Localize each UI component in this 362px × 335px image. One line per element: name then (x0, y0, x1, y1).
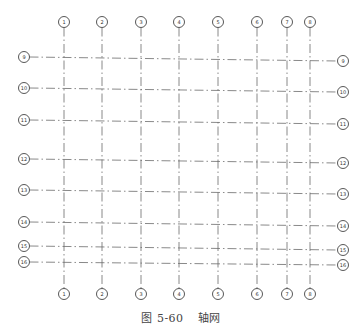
axis-bubble-right-10: 10 (338, 87, 349, 98)
axis-label: 15 (21, 243, 27, 249)
axis-bubble-left-16: 16 (19, 257, 30, 268)
axis-label: 15 (340, 247, 346, 253)
axis-bubble-left-14: 14 (19, 217, 30, 228)
horizontal-axis-line-10 (30, 88, 338, 92)
axis-label: 3 (139, 291, 142, 297)
axis-grid-diagram: 1122334455667788991010111112121313141415… (0, 0, 362, 335)
axis-label: 2 (100, 291, 103, 297)
horizontal-axis-line-16 (30, 262, 338, 265)
axis-label: 5 (216, 19, 219, 25)
axis-label: 11 (340, 121, 346, 127)
axis-label: 7 (285, 291, 288, 297)
horizontal-axis-line-15 (30, 246, 338, 250)
axis-bubble-left-11: 11 (19, 115, 30, 126)
axis-bubble-bottom-8: 8 (305, 289, 316, 300)
axis-bubble-right-12: 12 (338, 158, 349, 169)
axis-label: 16 (340, 262, 346, 268)
axis-bubble-right-16: 16 (338, 260, 349, 271)
axis-label: 4 (177, 291, 180, 297)
axis-label: 11 (21, 117, 27, 123)
axis-bubble-top-1: 1 (59, 17, 70, 28)
horizontal-axis-line-11 (30, 120, 338, 124)
axis-bubble-top-4: 4 (174, 17, 185, 28)
axis-label: 8 (308, 291, 311, 297)
axis-label: 1 (62, 19, 65, 25)
axis-bubble-bottom-2: 2 (97, 289, 108, 300)
axis-label: 6 (255, 19, 258, 25)
axis-label: 13 (21, 187, 27, 193)
axis-bubble-bottom-7: 7 (282, 289, 293, 300)
axis-bubble-bottom-5: 5 (213, 289, 224, 300)
axis-bubble-bottom-3: 3 (136, 289, 147, 300)
axis-bubble-bottom-4: 4 (174, 289, 185, 300)
axis-bubble-top-2: 2 (97, 17, 108, 28)
axis-bubble-top-3: 3 (136, 17, 147, 28)
axis-bubble-right-13: 13 (338, 189, 349, 200)
axis-label: 7 (285, 19, 288, 25)
axis-label: 12 (340, 160, 346, 166)
caption-number: 图 5-60 (141, 309, 183, 325)
axis-label: 6 (255, 291, 258, 297)
axis-label: 16 (21, 259, 27, 265)
axis-bubble-top-6: 6 (252, 17, 263, 28)
axis-label: 4 (177, 19, 180, 25)
axis-bubble-right-9: 9 (338, 56, 349, 67)
axis-bubble-bottom-6: 6 (252, 289, 263, 300)
axis-label: 3 (139, 19, 142, 25)
axis-label: 9 (341, 58, 344, 64)
axis-label: 8 (308, 19, 311, 25)
axis-bubble-left-9: 9 (19, 52, 30, 63)
horizontal-axis-line-9 (30, 57, 338, 61)
axis-label: 13 (340, 191, 346, 197)
horizontal-axis-line-12 (30, 159, 338, 163)
figure-caption: 图 5-60轴网 (0, 309, 362, 325)
axis-bubble-top-8: 8 (305, 17, 316, 28)
axis-label: 10 (21, 85, 27, 91)
axis-bubble-right-14: 14 (338, 221, 349, 232)
axis-label: 10 (340, 89, 346, 95)
axis-label: 2 (100, 19, 103, 25)
axis-bubble-top-5: 5 (213, 17, 224, 28)
axis-bubble-right-15: 15 (338, 245, 349, 256)
axis-label: 1 (62, 291, 65, 297)
axis-bubble-right-11: 11 (338, 119, 349, 130)
axis-label: 5 (216, 291, 219, 297)
axis-label: 12 (21, 156, 27, 162)
axis-bubble-left-15: 15 (19, 241, 30, 252)
axis-label: 14 (21, 219, 27, 225)
horizontal-axis-line-13 (30, 190, 338, 194)
horizontal-axis-line-14 (30, 222, 338, 226)
axis-bubble-left-10: 10 (19, 83, 30, 94)
horizontal-grid-lines (30, 57, 338, 265)
caption-title: 轴网 (198, 309, 221, 325)
axis-bubble-top-7: 7 (282, 17, 293, 28)
axis-label: 9 (22, 54, 25, 60)
axis-bubble-bottom-1: 1 (59, 289, 70, 300)
axis-label: 14 (340, 223, 346, 229)
axis-bubble-left-12: 12 (19, 154, 30, 165)
axis-bubble-left-13: 13 (19, 185, 30, 196)
